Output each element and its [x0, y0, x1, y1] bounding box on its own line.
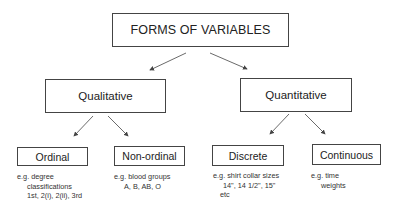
node-qualitative-label: Qualitative — [78, 90, 132, 102]
non-ordinal-example-line-2: A, B, AB, O — [114, 182, 170, 192]
non-ordinal-example: e.g. blood groups A, B, AB, O — [114, 172, 170, 191]
discrete-example-line-1: e.g. shirt collar sizes — [213, 171, 279, 180]
continuous-example-line-1: e.g. time — [311, 171, 339, 180]
node-continuous: Continuous — [312, 144, 381, 165]
node-quantitative: Quantitative — [240, 78, 352, 112]
root-node-label: FORMS OF VARIABLES — [131, 23, 271, 37]
discrete-example: e.g. shirt collar sizes 14", 14 1/2", 15… — [213, 171, 279, 200]
root-node-forms-of-variables: FORMS OF VARIABLES — [112, 13, 289, 47]
node-ordinal-label: Ordinal — [36, 151, 70, 163]
discrete-example-line-3: etc — [213, 190, 279, 200]
ordinal-example-line-2: classifications — [17, 182, 82, 192]
node-discrete-label: Discrete — [229, 150, 268, 162]
non-ordinal-example-line-1: e.g. blood groups — [114, 172, 170, 181]
node-non-ordinal-label: Non-ordinal — [122, 150, 176, 162]
ordinal-example: e.g. degree classifications 1st, 2(i), 2… — [17, 172, 82, 201]
discrete-example-line-2: 14", 14 1/2", 15" — [213, 181, 279, 191]
node-non-ordinal: Non-ordinal — [114, 146, 185, 166]
node-quantitative-label: Quantitative — [265, 89, 326, 101]
node-ordinal: Ordinal — [17, 147, 88, 166]
node-qualitative: Qualitative — [45, 79, 166, 113]
ordinal-example-line-1: e.g. degree — [17, 172, 54, 181]
node-discrete: Discrete — [212, 145, 284, 166]
node-continuous-label: Continuous — [320, 149, 373, 161]
continuous-example: e.g. time weights — [311, 171, 346, 190]
ordinal-example-line-3: 1st, 2(i), 2(ii), 3rd — [17, 191, 82, 201]
continuous-example-line-2: weights — [311, 181, 346, 191]
